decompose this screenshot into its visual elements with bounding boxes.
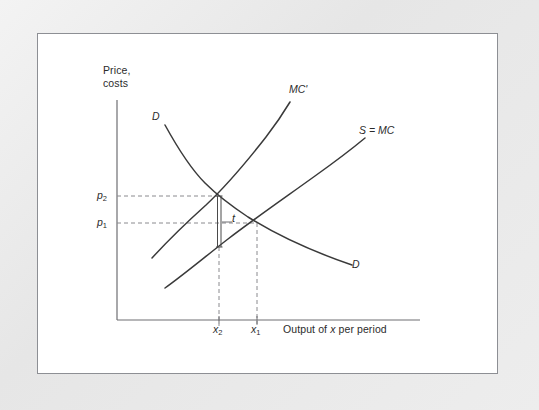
- diagram-canvas: [0, 0, 539, 410]
- price-tick-p1-subscript: 1: [103, 221, 107, 230]
- x-axis-label-prefix: Output of: [283, 323, 330, 335]
- x-axis-label-suffix: per period: [335, 323, 386, 335]
- quantity-tick-x1-subscript: 1: [256, 328, 260, 337]
- y-axis-label-line1: Price,: [103, 64, 130, 76]
- demand-curve-label-left: D: [152, 110, 160, 122]
- supply-mc-curve-label: S = MC: [359, 124, 394, 136]
- y-axis-label-line2: costs: [103, 77, 128, 89]
- mc-prime-curve-label: MC': [289, 83, 307, 95]
- demand-curve-label-right: D: [352, 258, 360, 270]
- tax-wedge-label: t: [232, 212, 235, 224]
- quantity-tick-label-x2: x2: [213, 323, 222, 337]
- figure-root: Price, costs Output of x per period D D …: [0, 0, 539, 410]
- quantity-tick-label-x1: x1: [251, 323, 260, 337]
- price-tick-label-p2: p2: [97, 189, 107, 203]
- price-tick-label-p1: p1: [97, 216, 107, 230]
- quantity-tick-x2-subscript: 2: [218, 328, 222, 337]
- x-axis-label: Output of x per period: [283, 323, 387, 335]
- price-tick-p2-subscript: 2: [103, 194, 107, 203]
- supply-mc-curve: [165, 138, 365, 288]
